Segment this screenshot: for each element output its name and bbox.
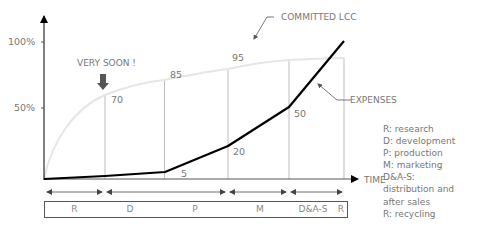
lcc-value-70: 70 [111,95,123,105]
expenses-leader [318,84,351,100]
legend-item: after sales [383,196,455,208]
phase-development: D [105,204,155,214]
phase-recycling: R [334,204,348,214]
expenses-label: EXPENSES [350,95,397,105]
phase-divider-lines [105,58,344,179]
legend-item: R: recycling [383,208,455,220]
expenses-value-5: 5 [181,169,187,179]
committed-lcc-label: COMMITTED LCC [281,12,356,22]
legend-item: D&A-S: [383,171,455,183]
phase-distribution-after-sales: D&A-S [293,204,333,214]
lcc-value-95: 95 [232,53,244,63]
expenses-value-20: 20 [233,147,245,157]
legend-item: distribution and [383,183,455,195]
phase-research: R [44,204,105,214]
legend-item: D: development [383,135,455,147]
phase-legend: R: research D: development P: production… [383,123,455,220]
lcc-value-85: 85 [170,70,182,80]
phase-production: P [170,204,220,214]
legend-item: M: marketing [383,159,455,171]
expenses-value-50: 50 [294,109,306,119]
legend-item: R: research [383,123,455,135]
y-tick-50: 50% [14,103,35,113]
y-tick-100: 100% [8,37,35,47]
very-soon-arrow-icon [97,74,109,90]
phase-marketing: M [235,204,285,214]
legend-item: P: production [383,147,455,159]
very-soon-annotation: VERY SOON ! [77,58,136,68]
committed-lcc-leader [254,17,274,39]
